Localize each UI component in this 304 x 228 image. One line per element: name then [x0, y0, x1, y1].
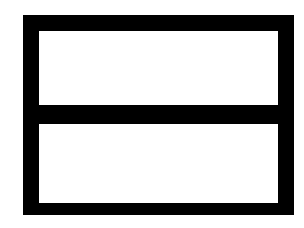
diagram-canvas: [0, 0, 304, 228]
bottom-pane: [39, 124, 278, 203]
top-pane: [39, 31, 278, 105]
split-rectangle-diagram: [0, 0, 304, 228]
